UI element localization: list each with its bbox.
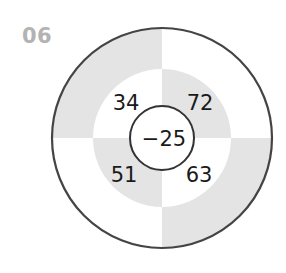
value-center: −25 bbox=[142, 127, 186, 151]
value-bottom-left: 51 bbox=[111, 163, 138, 187]
value-bottom-right: 63 bbox=[186, 163, 213, 187]
value-top-left: 34 bbox=[113, 91, 140, 115]
target-diagram: 34 72 51 63 −25 bbox=[0, 0, 286, 273]
value-top-right: 72 bbox=[187, 91, 214, 115]
